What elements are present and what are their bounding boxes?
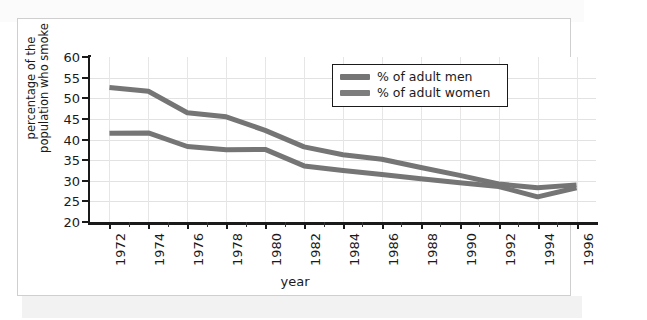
- x-tick-mark: [304, 222, 306, 229]
- x-tick-mark-minor: [440, 222, 441, 227]
- x-tick-mark-minor: [362, 222, 363, 227]
- legend-label-women: % of adult women: [377, 87, 490, 100]
- legend-item-adult-women: % of adult women: [340, 85, 500, 101]
- x-tick-mark: [148, 222, 150, 229]
- x-tick-label: 1978: [231, 233, 244, 279]
- legend-swatch-men: [340, 74, 370, 80]
- x-tick-mark-minor: [479, 222, 480, 227]
- x-tick-label: 1988: [426, 233, 439, 279]
- x-tick-mark: [499, 222, 501, 229]
- x-axis-title: year: [18, 274, 572, 289]
- x-tick-label: 1990: [465, 233, 478, 279]
- series-line: [109, 133, 576, 197]
- chart-legend: % of adult men % of adult women: [332, 64, 508, 107]
- x-tick-label: 1986: [387, 233, 400, 279]
- x-tick-label: 1982: [309, 233, 322, 279]
- x-tick-label: 1996: [582, 233, 595, 279]
- y-tick-label: 30: [63, 174, 80, 187]
- x-tick-mark-minor: [168, 222, 169, 227]
- y-tick-label: 35: [63, 154, 80, 167]
- page-root: percentage of the population who smoke 2…: [0, 0, 647, 320]
- x-tick-mark-minor: [557, 222, 558, 227]
- y-tick-label: 60: [63, 51, 80, 64]
- x-tick-mark-minor: [246, 222, 247, 227]
- x-tick-mark: [460, 222, 462, 229]
- x-tick-label: 1984: [348, 233, 361, 279]
- y-tick-label: 40: [63, 133, 80, 146]
- y-tick-label: 50: [63, 92, 80, 105]
- x-tick-mark: [538, 222, 540, 229]
- x-tick-mark-minor: [285, 222, 286, 227]
- x-tick-mark: [577, 222, 579, 229]
- x-tick-mark-minor: [129, 222, 130, 227]
- x-tick-mark: [421, 222, 423, 229]
- x-tick-mark-minor: [401, 222, 402, 227]
- x-tick-mark: [265, 222, 267, 229]
- x-tick-mark-minor: [324, 222, 325, 227]
- y-tick-labels: 202530354045505560: [44, 57, 80, 222]
- scan-band-bottom: [22, 296, 582, 318]
- legend-label-men: % of adult men: [377, 71, 473, 84]
- y-tick-label: 55: [63, 71, 80, 84]
- x-tick-label: 1972: [114, 233, 127, 279]
- x-tick-label: 1976: [192, 233, 205, 279]
- x-tick-label: 1980: [270, 233, 283, 279]
- y-tick-label: 20: [63, 216, 80, 229]
- x-tick-mark: [109, 222, 111, 229]
- legend-swatch-women: [340, 90, 370, 96]
- x-tick-mark: [343, 222, 345, 229]
- x-tick-mark: [382, 222, 384, 229]
- legend-item-adult-men: % of adult men: [340, 69, 500, 85]
- x-tick-label: 1992: [504, 233, 517, 279]
- y-tick-label: 45: [63, 112, 80, 125]
- x-tick-mark-minor: [207, 222, 208, 227]
- y-tick-label: 25: [63, 195, 80, 208]
- x-tick-mark: [226, 222, 228, 229]
- x-tick-mark: [187, 222, 189, 229]
- chart-card: percentage of the population who smoke 2…: [17, 18, 571, 296]
- x-tick-label: 1994: [543, 233, 556, 279]
- x-tick-mark-minor: [518, 222, 519, 227]
- x-tick-label: 1974: [153, 233, 166, 279]
